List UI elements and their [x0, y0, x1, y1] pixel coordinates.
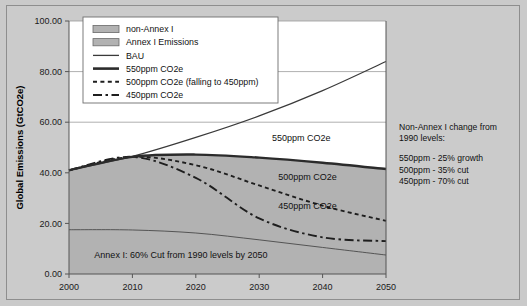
figure-container: 0.0020.0040.0060.0080.00100.002000201020… [0, 0, 527, 306]
legend-item: Annex I Emissions [93, 37, 199, 47]
legend-item-label: 450ppm CO2e [126, 90, 183, 100]
legend-item-label: 500ppm CO2e (falling to 450ppm) [126, 77, 259, 87]
x-tick-label: 2020 [186, 282, 206, 292]
x-tick-label: 2010 [122, 282, 142, 292]
label-550: 550ppm CO2e [272, 133, 331, 143]
chart-legend: non-Annex IAnnex I EmissionsBAU550ppm CO… [83, 17, 278, 103]
y-tick-label: 100.00 [34, 16, 62, 26]
label-450: 450ppm CO2e [278, 201, 337, 211]
x-tick-label: 2000 [59, 282, 79, 292]
legend-swatch-fill [93, 25, 119, 32]
legend-swatch-fill [93, 39, 119, 46]
side-note: Non-Annex I change from1990 levels:550pp… [399, 122, 497, 186]
side-note-row: 500ppm - 35% cut [399, 165, 469, 175]
side-note-row: 550ppm - 25% growth [399, 153, 483, 163]
y-tick-label: 20.00 [39, 219, 62, 229]
x-tick-label: 2040 [313, 282, 333, 292]
x-tick-label: 2030 [249, 282, 269, 292]
figure-frame: 0.0020.0040.0060.0080.00100.002000201020… [6, 5, 520, 300]
side-note-heading-1: Non-Annex I change from [399, 122, 497, 132]
emissions-chart: 0.0020.0040.0060.0080.00100.002000201020… [7, 6, 521, 301]
legend-item-label: BAU [126, 51, 144, 61]
side-note-row: 450ppm - 70% cut [399, 176, 469, 186]
y-tick-label: 60.00 [39, 117, 62, 127]
legend-item-label: 550ppm CO2e [126, 64, 183, 74]
x-tick-label: 2050 [376, 282, 396, 292]
side-note-heading-2: 1990 levels: [399, 133, 445, 143]
legend-item: non-Annex I [93, 24, 173, 34]
y-axis-title: Global Emissions (GtCO2e) [14, 85, 25, 209]
legend-item-label: Annex I Emissions [126, 37, 199, 47]
label-500: 500ppm CO2e [278, 172, 337, 182]
y-tick-label: 80.00 [39, 67, 62, 77]
y-tick-label: 0.00 [44, 269, 62, 279]
y-tick-label: 40.00 [39, 168, 62, 178]
label-annex: Annex I: 60% Cut from 1990 levels by 205… [94, 250, 267, 260]
legend-item-label: non-Annex I [126, 24, 173, 34]
